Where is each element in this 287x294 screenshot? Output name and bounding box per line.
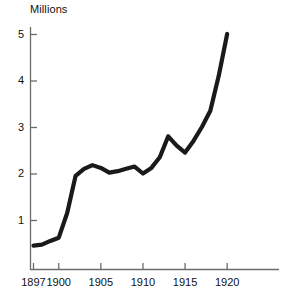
line-chart: Millions 12345 189719001905191019151920	[0, 0, 287, 294]
x-tick-label: 1915	[165, 277, 205, 288]
y-axis-ticks	[31, 35, 38, 221]
y-tick-label: 5	[6, 29, 24, 40]
x-tick-label: 1905	[81, 277, 121, 288]
x-tick-label: 1920	[207, 277, 247, 288]
axis-lines	[31, 27, 280, 270]
y-tick-label: 1	[6, 215, 24, 226]
x-axis-ticks	[34, 263, 228, 270]
y-tick-label: 3	[6, 122, 24, 133]
plot-area	[0, 0, 287, 294]
data-series-line	[34, 34, 228, 246]
y-tick-label: 4	[6, 75, 24, 86]
y-tick-label: 2	[6, 168, 24, 179]
x-tick-label: 1910	[123, 277, 163, 288]
x-tick-label: 1900	[39, 277, 79, 288]
